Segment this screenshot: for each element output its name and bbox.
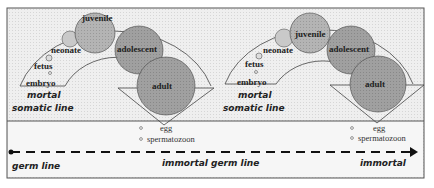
stage-label-fetus: fetus (34, 61, 53, 71)
stage-label-fetus: fetus (245, 59, 264, 69)
stage-label-adult: adult (152, 81, 172, 91)
germ-line-label: germ line (12, 161, 60, 171)
gamete-label-spermatozoon: spermatozoon (358, 133, 406, 143)
immortal-germ-line-label: immortal germ line (162, 158, 259, 168)
stage-label-juvenile: juvenile (81, 13, 113, 23)
stage-label-neonate: neonate (51, 45, 81, 55)
stage-label-adult: adult (365, 79, 385, 89)
somatic-label-line: somatic line (223, 103, 285, 113)
germ-band-background (8, 121, 423, 177)
germline-soma-diagram: embryo fetus neonate juvenile adolescent… (0, 0, 434, 188)
gamete-label-egg: egg (160, 123, 173, 133)
immortal-label: immortal (360, 158, 407, 168)
somatic-label-mortal: mortal (27, 90, 61, 100)
stage-label-embryo: embryo (237, 77, 267, 87)
stage-label-adolescent: adolescent (329, 44, 369, 54)
somatic-label-line: somatic line (12, 103, 74, 113)
stage-label-juvenile: juvenile (294, 29, 326, 39)
somatic-label-mortal: mortal (238, 90, 272, 100)
stage-label-adolescent: adolescent (117, 44, 157, 54)
stage-label-neonate: neonate (263, 45, 293, 55)
gamete-label-egg: egg (373, 123, 386, 133)
gamete-label-spermatozoon: spermatozoon (147, 134, 195, 144)
stage-label-embryo: embryo (26, 78, 56, 88)
